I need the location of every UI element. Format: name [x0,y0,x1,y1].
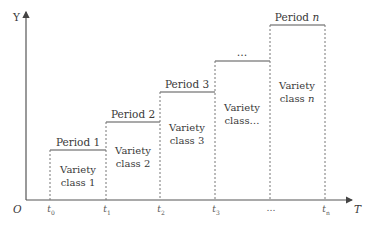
variety-class-3: Varietyclass 3 [169,121,205,147]
x-axis-label: T [354,203,361,215]
period-ellipsis-title: … [237,46,248,58]
period-n-title: Period n [275,11,319,23]
variety-class-ellipsis: Varietyclass… [224,101,260,127]
diagram-canvas [0,0,368,225]
variety-class-2: Varietyclass 2 [115,144,151,170]
period-1-title: Period 1 [56,136,100,148]
period-2-title: Period 2 [111,108,155,120]
tick-tn: tn [322,204,330,216]
variety-class-1: Varietyclass 1 [60,163,96,189]
period-3-title: Period 3 [165,78,209,90]
tick-t3: t3 [212,204,219,216]
variety-class-n: Varietyclass n [279,79,315,105]
tick-t1: t1 [103,204,110,216]
tick-ellipsis: … [267,203,276,213]
y-axis-label: Y [13,11,20,23]
tick-t2: t2 [157,204,164,216]
origin-label: O [13,203,22,215]
tick-t0: t0 [47,204,54,216]
